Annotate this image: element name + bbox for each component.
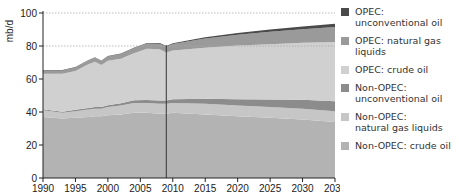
- y-tick-label: 60: [26, 74, 38, 85]
- legend-label: Non-OPEC:natural gas liquids: [355, 111, 443, 133]
- legend-item: OPEC: natural gas liquids: [341, 35, 459, 57]
- x-tick-label: 2035: [324, 183, 340, 194]
- legend-item: OPEC: unconventional oil: [341, 6, 459, 28]
- legend-swatch: [341, 84, 349, 92]
- legend-item: Non-OPEC:natural gas liquids: [341, 111, 459, 133]
- legend-item: Non-OPEC: crude oil: [341, 140, 459, 151]
- y-tick-label: 80: [26, 41, 38, 52]
- legend-label: OPEC: unconventional oil: [355, 6, 459, 28]
- legend-swatch: [341, 66, 349, 74]
- x-tick-label: 2020: [227, 183, 250, 194]
- legend-swatch: [341, 142, 349, 150]
- legend-swatch: [341, 37, 349, 45]
- stacked-area-chart: 0204060801001990199520002005201020152020…: [0, 0, 340, 195]
- legend-label: OPEC: crude oil: [355, 64, 428, 75]
- y-tick-label: 40: [26, 107, 38, 118]
- y-axis-label: mb/d: [4, 20, 15, 42]
- x-tick-label: 2005: [129, 183, 152, 194]
- area-layers: [43, 24, 335, 178]
- x-tick-label: 2010: [162, 183, 185, 194]
- x-tick-label: 1990: [32, 183, 55, 194]
- y-tick-label: 100: [20, 8, 37, 19]
- x-tick-label: 2030: [291, 183, 314, 194]
- legend-item: OPEC: crude oil: [341, 64, 459, 75]
- x-tick-label: 1995: [64, 183, 87, 194]
- x-tick-label: 2015: [194, 183, 217, 194]
- y-tick-label: 0: [31, 173, 37, 184]
- legend-label: Non-OPEC: crude oil: [355, 140, 451, 151]
- legend-item: Non-OPEC:unconventional oil: [341, 82, 459, 104]
- area-non-opec-crude-oil: [43, 113, 335, 178]
- legend-swatch: [341, 113, 349, 121]
- legend-label: OPEC: natural gas liquids: [355, 35, 459, 57]
- legend: OPEC: unconventional oilOPEC: natural ga…: [341, 6, 459, 158]
- y-tick-label: 20: [26, 140, 38, 151]
- x-tick-label: 2000: [97, 183, 120, 194]
- legend-swatch: [341, 8, 349, 16]
- legend-label: Non-OPEC:unconventional oil: [355, 82, 442, 104]
- x-tick-label: 2025: [259, 183, 282, 194]
